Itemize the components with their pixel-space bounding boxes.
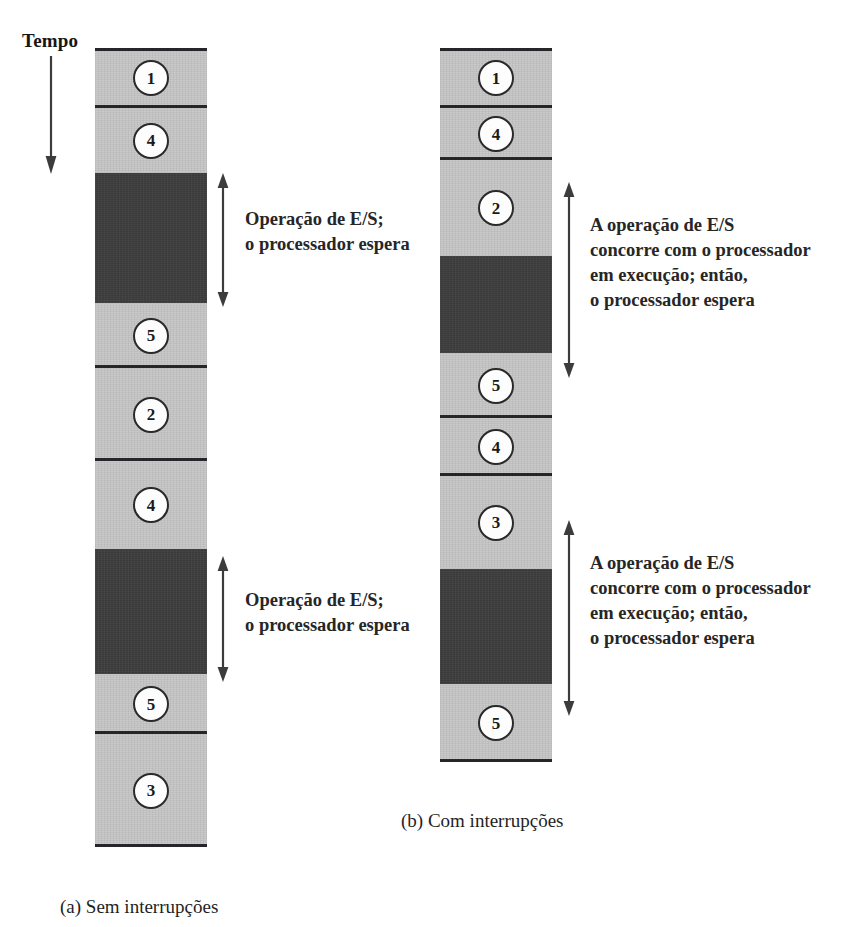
process-number-badge: 1: [478, 60, 514, 96]
timeline-column-a: 1452453: [95, 48, 207, 847]
process-number-badge: 5: [133, 318, 169, 354]
io-span-arrow-icon: [216, 556, 230, 682]
process-segment: 1: [440, 48, 552, 108]
process-number-badge: 2: [478, 190, 514, 226]
process-number-badge: 4: [133, 123, 169, 159]
panel-caption-b: (b) Com interrupções: [401, 810, 564, 832]
process-segment: 3: [440, 476, 552, 569]
annotation-io-concurrent-2: A operação de E/S concorre com o process…: [590, 551, 811, 651]
timeline-column-b: 1425435: [440, 48, 552, 762]
annotation-io-concurrent-1: A operação de E/S concorre com o process…: [590, 213, 811, 313]
io-span-arrow-icon: [216, 173, 230, 307]
process-segment: 5: [95, 303, 207, 368]
time-axis-label: Tempo: [22, 30, 78, 52]
process-number-badge: 2: [133, 397, 169, 433]
process-segment: 4: [95, 108, 207, 173]
process-number-badge: 3: [133, 773, 169, 809]
process-segment: 3: [95, 734, 207, 847]
process-number-badge: 1: [133, 60, 169, 96]
process-segment: 4: [440, 108, 552, 160]
io-operation-block: [440, 256, 552, 353]
process-segment: 1: [95, 48, 207, 108]
process-segment: 2: [95, 368, 207, 461]
io-span-arrow-icon: [562, 182, 576, 378]
io-operation-block: [95, 173, 207, 303]
process-number-badge: 4: [478, 116, 514, 152]
process-segment: 5: [440, 353, 552, 418]
panel-caption-a: (a) Sem interrupções: [60, 896, 218, 918]
process-number-badge: 5: [478, 705, 514, 741]
process-segment: 4: [95, 461, 207, 549]
process-segment: 5: [95, 674, 207, 734]
process-number-badge: 3: [478, 505, 514, 541]
annotation-io-wait-1: Operação de E/S; o processador espera: [245, 207, 410, 257]
process-number-badge: 4: [478, 429, 514, 465]
io-operation-block: [95, 549, 207, 674]
process-segment: 2: [440, 160, 552, 256]
io-operation-block: [440, 569, 552, 684]
io-span-arrow-icon: [562, 520, 576, 716]
process-number-badge: 4: [133, 487, 169, 523]
time-axis-arrow-icon: [44, 56, 58, 174]
figure-canvas: Tempo 1452453Operação de E/S; o processa…: [0, 0, 859, 927]
process-number-badge: 5: [133, 686, 169, 722]
process-segment: 4: [440, 418, 552, 476]
process-segment: 5: [440, 684, 552, 762]
annotation-io-wait-2: Operação de E/S; o processador espera: [245, 588, 410, 638]
process-number-badge: 5: [478, 368, 514, 404]
